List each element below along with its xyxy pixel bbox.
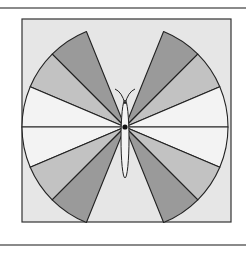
butterfly-diagram <box>0 0 246 254</box>
butterfly-body <box>121 100 129 178</box>
bottom-divider <box>0 244 246 246</box>
center-point <box>122 124 127 129</box>
